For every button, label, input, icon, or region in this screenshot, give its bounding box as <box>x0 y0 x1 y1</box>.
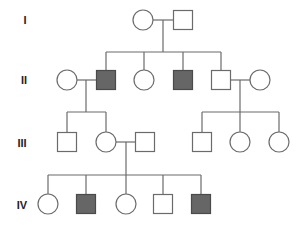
female-circle-icon <box>57 70 77 90</box>
relationship-lines <box>48 20 279 195</box>
male-square-icon <box>212 71 231 90</box>
affected-male-square-icon <box>77 195 96 214</box>
female-circle-icon <box>134 70 154 90</box>
generation-label-i: I <box>23 15 26 26</box>
female-circle-icon <box>269 132 289 152</box>
male-square-icon <box>136 133 155 152</box>
female-circle-icon <box>133 10 153 30</box>
pedigree-diagram <box>0 0 304 225</box>
male-square-icon <box>174 11 193 30</box>
affected-male-square-icon <box>97 71 116 90</box>
affected-male-square-icon <box>174 71 193 90</box>
male-square-icon <box>154 195 173 214</box>
female-circle-icon <box>250 70 270 90</box>
female-circle-icon <box>96 132 116 152</box>
generation-label-iii: III <box>17 138 26 149</box>
female-circle-icon <box>116 194 136 214</box>
male-square-icon <box>58 133 77 152</box>
female-circle-icon <box>230 132 250 152</box>
female-circle-icon <box>38 194 58 214</box>
generation-label-ii: II <box>21 75 27 86</box>
affected-male-square-icon <box>192 195 211 214</box>
generation-label-iv: IV <box>17 200 27 211</box>
male-square-icon <box>193 133 212 152</box>
